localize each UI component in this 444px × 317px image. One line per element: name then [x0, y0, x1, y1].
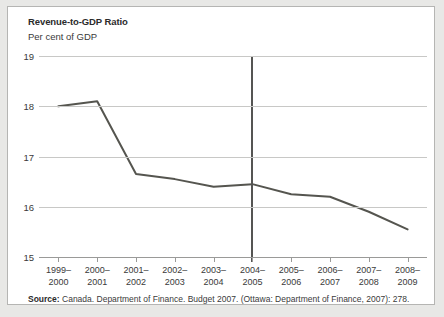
gridline-19: 19 — [39, 56, 427, 57]
source-note: Source: Canada. Department of Finance. B… — [28, 294, 409, 304]
x-axis-tick — [214, 257, 215, 262]
x-axis-tick-label: 2007–2008 — [356, 265, 381, 288]
x-axis-tick — [252, 257, 253, 262]
x-axis-tick-label: 2001–2002 — [123, 265, 148, 288]
gridline-16: 16 — [39, 207, 427, 208]
x-axis-tick — [136, 257, 137, 262]
x-axis-tick — [291, 257, 292, 262]
chart-title: Revenue-to-GDP Ratio — [28, 16, 128, 27]
source-label: Source: — [28, 294, 60, 304]
y-axis-tick-label: 17 — [23, 151, 34, 162]
x-axis-tick-label: 2002–2003 — [162, 265, 187, 288]
y-axis-tick-label: 15 — [23, 252, 34, 263]
x-axis-tick — [408, 257, 409, 262]
x-axis-tick — [97, 257, 98, 262]
x-axis-tick-label: 2000–2001 — [85, 265, 110, 288]
x-axis-tick — [175, 257, 176, 262]
x-axis-tick — [330, 257, 331, 262]
x-axis-tick — [58, 257, 59, 262]
x-axis-tick — [369, 257, 370, 262]
gridline-17: 17 — [39, 157, 427, 158]
x-axis-tick-label: 2004–2005 — [240, 265, 265, 288]
x-axis-tick-label: 2006–2007 — [317, 265, 342, 288]
figure-panel: Revenue-to-GDP Ratio Per cent of GDP 191… — [7, 6, 435, 305]
chart-subtitle: Per cent of GDP — [28, 31, 97, 42]
gridline-18: 18 — [39, 106, 427, 107]
projection-divider-line — [251, 56, 253, 262]
x-axis-tick-label: 2008–2009 — [395, 265, 420, 288]
y-axis-tick-label: 18 — [23, 101, 34, 112]
y-axis-tick-label: 19 — [23, 51, 34, 62]
x-axis-tick-label: 1999–2000 — [46, 265, 71, 288]
x-axis-tick-label: 2005–2006 — [279, 265, 304, 288]
y-axis-tick-label: 16 — [23, 201, 34, 212]
source-text: Canada. Department of Finance. Budget 20… — [60, 294, 410, 304]
x-axis-tick-label: 2003–2004 — [201, 265, 226, 288]
plot-area: 19181716151999–20002000–20012001–2002200… — [39, 56, 427, 257]
